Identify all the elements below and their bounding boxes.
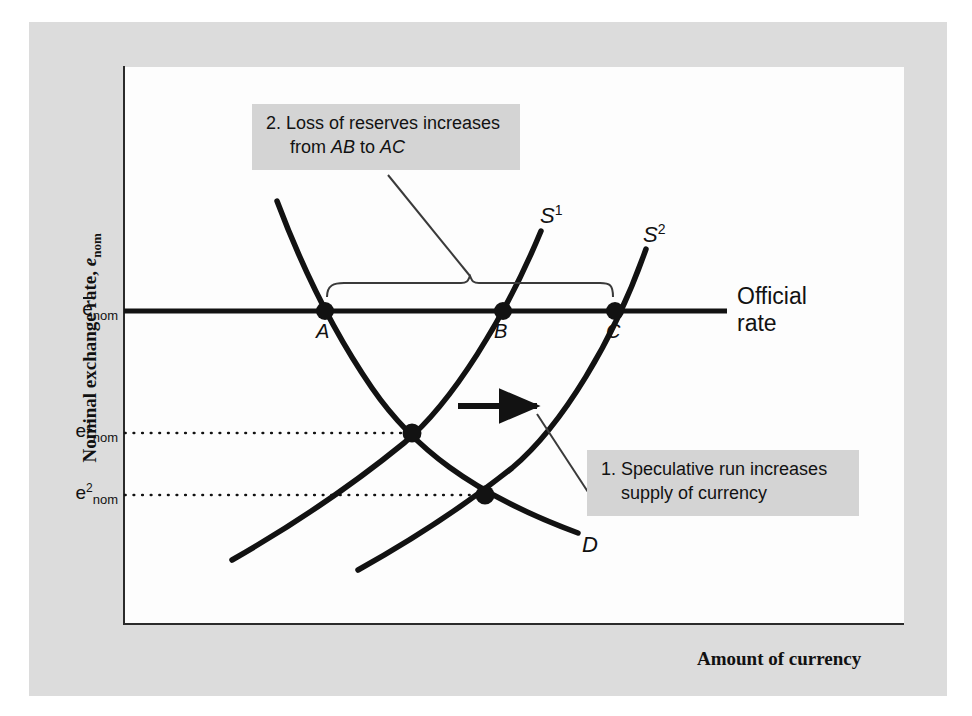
callout-2-line-2-prefix: from — [266, 137, 331, 157]
supply-2-superscript: 2 — [658, 221, 666, 237]
y-axis-line — [123, 66, 125, 625]
callout-speculative-run: 1. Speculative run increases supply of c… — [587, 450, 859, 516]
point-b-label: B — [494, 320, 507, 343]
ytick-e2-sub: nom — [93, 492, 118, 507]
ytick-e1-letter: e — [75, 420, 86, 441]
ytick-e2-label: e2nom — [20, 483, 118, 502]
callout-2-segment-ac: AC — [380, 137, 405, 157]
supply-2-letter: S — [643, 222, 658, 247]
y-axis-title-variable: e — [79, 258, 100, 266]
supply-2-label: S2 — [643, 222, 665, 248]
ytick-e1-sub: nom — [93, 430, 118, 445]
point-a-label: A — [316, 320, 329, 343]
callout-2-segment-ab: AB — [331, 137, 355, 157]
point-c-label: C — [606, 320, 620, 343]
x-axis-line — [123, 623, 904, 625]
ytick-e1-label: e1nom — [20, 421, 118, 440]
x-axis-title: Amount of currency — [697, 648, 861, 670]
callout-1-line-1: 1. Speculative run increases — [601, 459, 827, 479]
callout-2-line-1: 2. Loss of reserves increases — [266, 113, 500, 133]
ytick-official-sub: nom — [93, 308, 118, 323]
ytick-official-base: e — [82, 299, 93, 318]
ytick-official-letter: e — [82, 298, 93, 319]
supply-1-letter: S — [540, 203, 555, 228]
demand-label: D — [582, 532, 598, 558]
callout-loss-of-reserves: 2. Loss of reserves increases from AB to… — [252, 104, 520, 170]
ytick-official-label: enom — [20, 299, 118, 318]
overbar-mark — [83, 297, 93, 299]
supply-1-label: S1 — [540, 203, 562, 229]
y-axis-title-subscript: nom — [89, 233, 104, 258]
supply-1-superscript: 1 — [555, 202, 563, 218]
ytick-e1-sup: 1 — [86, 419, 93, 433]
ytick-e2-sup: 2 — [86, 481, 93, 495]
callout-1-line-2: supply of currency — [601, 483, 767, 503]
official-rate-label: Official rate — [737, 283, 807, 337]
figure-container: Nominal exchange rate, enom Amount of cu… — [0, 0, 972, 716]
ytick-e2-letter: e — [75, 482, 86, 503]
callout-2-line-2-middle: to — [355, 137, 380, 157]
